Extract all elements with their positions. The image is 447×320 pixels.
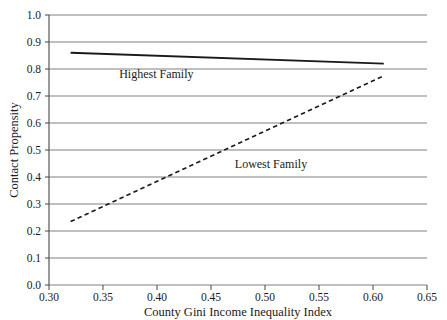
x-axis-title: County Gini Income Inequality Index bbox=[144, 305, 333, 319]
x-tick-label-0-45: 0.45 bbox=[201, 291, 221, 303]
x-tick-label-0-65: 0.65 bbox=[417, 291, 437, 303]
chart-figure: 1.0 0.9 0.8 0.7 0.6 0.5 0.4 0.3 0.2 0.1 … bbox=[0, 0, 447, 320]
x-tick-label-0-30: 0.30 bbox=[39, 291, 59, 303]
y-tick-label-0-5: 0.5 bbox=[27, 144, 42, 156]
chart-background bbox=[0, 0, 447, 320]
x-tick-label-0-60: 0.60 bbox=[363, 291, 383, 303]
x-tick-label-0-35: 0.35 bbox=[93, 291, 113, 303]
series-label-highest-family: Highest Family bbox=[119, 67, 193, 81]
series-label-lowest-family: Lowest Family bbox=[235, 157, 307, 171]
y-tick-label-0-9: 0.9 bbox=[27, 36, 42, 48]
y-tick-label-0-6: 0.6 bbox=[27, 117, 42, 129]
y-tick-label-0-4: 0.4 bbox=[27, 171, 42, 183]
x-tick-label-0-55: 0.55 bbox=[309, 291, 329, 303]
x-tick-label-0-50: 0.50 bbox=[255, 291, 275, 303]
y-tick-label-0-0: 0.0 bbox=[27, 279, 42, 291]
line-chart: 1.0 0.9 0.8 0.7 0.6 0.5 0.4 0.3 0.2 0.1 … bbox=[0, 0, 447, 320]
y-tick-label-0-2: 0.2 bbox=[27, 225, 42, 237]
y-tick-label-1-0: 1.0 bbox=[27, 9, 42, 21]
y-tick-label-0-7: 0.7 bbox=[27, 90, 42, 102]
y-tick-label-0-3: 0.3 bbox=[27, 198, 42, 210]
y-tick-label-0-1: 0.1 bbox=[27, 252, 42, 264]
y-axis-title: Contact Propensity bbox=[7, 102, 21, 198]
x-tick-label-0-40: 0.40 bbox=[147, 291, 167, 303]
y-tick-label-0-8: 0.8 bbox=[27, 63, 42, 75]
